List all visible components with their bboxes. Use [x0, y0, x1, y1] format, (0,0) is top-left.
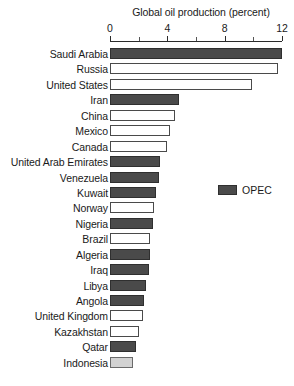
bar: [110, 295, 144, 306]
bar: [110, 249, 150, 260]
bar-row: Brazil: [0, 233, 294, 248]
bar-row: United Arab Emirates: [0, 156, 294, 171]
x-axis-tick-label: 8: [212, 22, 238, 34]
bar: [110, 172, 159, 183]
x-axis-tick-label: 4: [154, 22, 180, 34]
bar-row: United States: [0, 79, 294, 94]
bar-label: United Arab Emirates: [11, 156, 108, 168]
bar-label: Indonesia: [63, 357, 108, 369]
bar: [110, 48, 282, 59]
bar: [110, 156, 160, 167]
legend-swatch-opec: [218, 185, 237, 195]
bar-row: Kazakhstan: [0, 326, 294, 341]
bar-label: Kazakhstan: [54, 326, 108, 338]
bar-chart: Global oil production (percent) 04812 Sa…: [0, 0, 294, 386]
bar-row: United Kingdom: [0, 310, 294, 325]
bar-row: Angola: [0, 295, 294, 310]
bar-label: Libya: [83, 280, 108, 292]
x-axis-minor-tick: [139, 37, 140, 41]
bar: [110, 218, 153, 229]
x-axis-major-tick: [167, 36, 168, 41]
x-axis-major-tick: [282, 36, 283, 41]
bar-row: Indonesia: [0, 357, 294, 372]
bar-label: Iran: [90, 94, 108, 106]
bar-label: Saudi Arabia: [50, 48, 108, 60]
x-axis-major-tick: [225, 36, 226, 41]
bar: [110, 264, 149, 275]
bar-row: Russia: [0, 63, 294, 78]
bar: [110, 187, 156, 198]
x-axis-major-tick: [110, 36, 111, 41]
bar: [110, 357, 133, 368]
bar-label: Canada: [72, 141, 108, 153]
bar-label: Nigeria: [75, 218, 108, 230]
bar-label: Qatar: [82, 341, 108, 353]
x-axis: 04812: [0, 22, 294, 46]
x-axis-minor-tick: [196, 37, 197, 41]
bar: [110, 141, 167, 152]
legend-label-opec: OPEC: [242, 184, 272, 196]
bar-label: Russia: [77, 63, 109, 75]
bar-label: United Kingdom: [35, 310, 108, 322]
bar-label: Mexico: [75, 125, 108, 137]
chart-title: Global oil production (percent): [108, 6, 294, 19]
bar-label: Algeria: [76, 249, 108, 261]
bar: [110, 79, 252, 90]
bar: [110, 202, 154, 213]
bar: [110, 233, 150, 244]
bar-row: Iraq: [0, 264, 294, 279]
bar-row: Canada: [0, 141, 294, 156]
bar-row: Saudi Arabia: [0, 48, 294, 63]
bar-label: Norway: [73, 202, 108, 214]
bar-label: Angola: [76, 295, 108, 307]
bar: [110, 341, 136, 352]
bar-label: Brazil: [82, 233, 108, 245]
bar-row: Nigeria: [0, 218, 294, 233]
bar: [110, 110, 175, 121]
bar: [110, 94, 179, 105]
bar-row: Iran: [0, 94, 294, 109]
bar-row: Norway: [0, 202, 294, 217]
bar-rows: Saudi ArabiaRussiaUnited StatesIranChina…: [0, 48, 294, 372]
bar-row: China: [0, 110, 294, 125]
bar-label: Kuwait: [77, 187, 108, 199]
bar-row: Mexico: [0, 125, 294, 140]
bar-label: United States: [46, 79, 108, 91]
bar: [110, 280, 146, 291]
chart-legend: OPEC: [218, 184, 272, 196]
x-axis-tick-label: 0: [97, 22, 123, 34]
x-axis-minor-tick: [253, 37, 254, 41]
bar-label: China: [81, 110, 108, 122]
bar: [110, 326, 139, 337]
bar: [110, 125, 170, 136]
bar: [110, 310, 143, 321]
x-axis-line: [110, 41, 282, 42]
bar-row: Libya: [0, 280, 294, 295]
bar-label: Venezuela: [60, 172, 108, 184]
x-axis-tick-label: 12: [269, 22, 294, 34]
bar-label: Iraq: [90, 264, 108, 276]
bar-row: Algeria: [0, 249, 294, 264]
bar-row: Qatar: [0, 341, 294, 356]
bar: [110, 63, 278, 74]
